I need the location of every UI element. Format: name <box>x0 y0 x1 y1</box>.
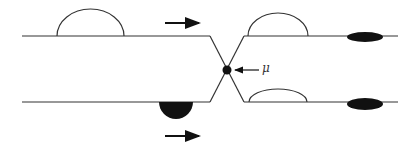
filled-droplet-top-right <box>347 32 383 42</box>
open-droplet-top-right <box>248 13 308 36</box>
open-droplet-top-left <box>57 9 124 36</box>
left-channel <box>22 36 210 102</box>
mu-label: μ <box>262 61 270 75</box>
filled-droplet-bottom-right <box>347 98 383 110</box>
diagram-canvas <box>0 0 414 147</box>
mu-point <box>223 66 232 75</box>
filled-droplet-bottom-left <box>159 102 193 119</box>
open-droplet-bottom-right <box>249 89 307 102</box>
